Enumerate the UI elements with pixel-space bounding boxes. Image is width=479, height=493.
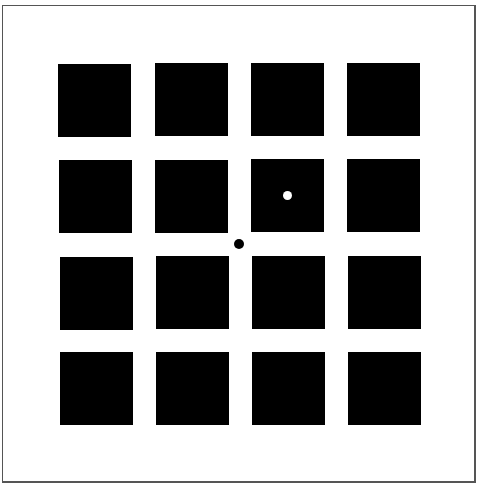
white-dot xyxy=(283,191,292,200)
black-square xyxy=(155,160,228,233)
black-square xyxy=(347,159,420,232)
black-square xyxy=(60,352,133,425)
black-square xyxy=(156,256,229,329)
black-square xyxy=(58,64,131,137)
black-square xyxy=(348,256,421,329)
black-square xyxy=(251,63,324,136)
black-fixation-dot xyxy=(234,239,244,249)
black-square xyxy=(59,160,132,233)
black-square xyxy=(347,63,420,136)
black-square xyxy=(60,257,133,330)
black-square xyxy=(252,256,325,329)
black-square xyxy=(252,352,325,425)
black-square xyxy=(156,352,229,425)
black-square xyxy=(155,63,228,136)
black-square xyxy=(348,352,421,425)
